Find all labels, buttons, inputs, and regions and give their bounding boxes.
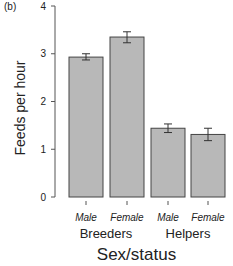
y-tick-label: 4 xyxy=(40,1,46,12)
category-label-helper-male: Male xyxy=(148,212,188,223)
x-axis-label: Sex/status xyxy=(40,245,233,265)
category-label-breeder-female: Female xyxy=(107,212,147,223)
group-label-breeders: Breeders xyxy=(66,226,146,241)
bar xyxy=(110,37,144,197)
y-tick-label: 2 xyxy=(40,96,46,107)
y-tick-label: 3 xyxy=(40,48,46,59)
bar xyxy=(191,134,225,197)
category-label-breeder-male: Male xyxy=(66,212,106,223)
category-label-helper-female: Female xyxy=(188,212,228,223)
bar xyxy=(69,57,103,197)
y-tick-label: 1 xyxy=(40,144,46,155)
group-label-helpers: Helpers xyxy=(148,226,228,241)
bar xyxy=(151,128,185,197)
y-tick-label: 0 xyxy=(40,192,46,203)
